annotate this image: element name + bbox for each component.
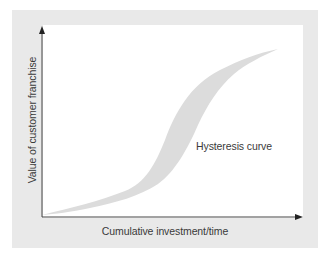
y-axis-arrow-icon [39,26,45,34]
curve-annotation: Hysteresis curve [196,140,272,152]
chart-canvas [0,0,330,263]
hysteresis-band [42,49,278,215]
y-axis-label: Value of customer franchise [26,57,38,184]
x-axis-arrow-icon [295,214,303,220]
x-axis-label: Cumulative investment/time [102,225,228,237]
